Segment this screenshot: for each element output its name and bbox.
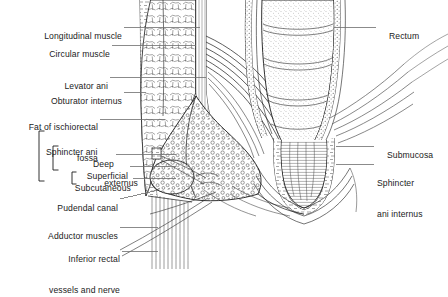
- label-inferior-rectal-vessels-and-nerve-line-1: Inferior rectal: [0, 254, 120, 264]
- label-pudendal-canal-line-1: Pudendal canal: [57, 203, 118, 213]
- label-pudendal-canal: Pudendal canal: [0, 193, 118, 224]
- label-circular-muscle: Circular muscle: [0, 39, 110, 70]
- label-sphincter-ani-internus-line-2: ani internus: [377, 209, 448, 219]
- label-subcutaneous-line-1: Subcutaneous: [75, 183, 131, 193]
- label-rectum: Rectum: [379, 21, 448, 52]
- label-sphincter-ani-internus-line-1: Sphincter: [377, 178, 448, 188]
- label-circular-muscle-line-1: Circular muscle: [49, 49, 110, 59]
- label-rectum-line-1: Rectum: [389, 31, 419, 41]
- label-sphincter-ani-internus: Sphincter ani internus: [377, 158, 448, 240]
- label-inferior-rectal-vessels-and-nerve-line-2: vessels and nerve: [0, 285, 120, 295]
- label-inferior-rectal-vessels-and-nerve: Inferior rectal vessels and nerve: [0, 234, 120, 297]
